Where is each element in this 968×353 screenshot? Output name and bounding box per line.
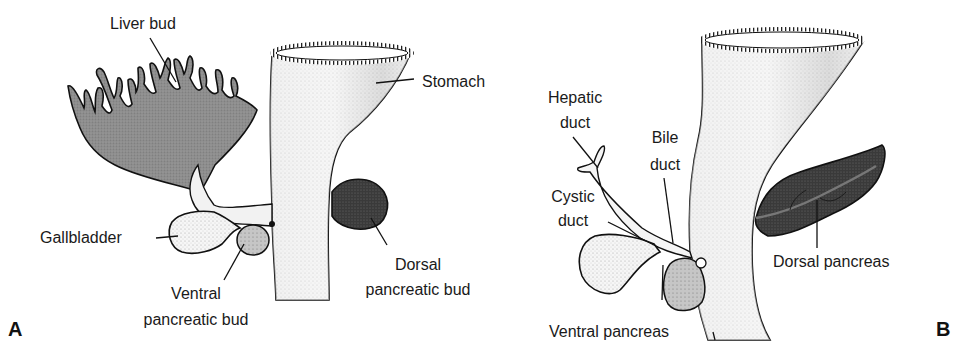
label-dorsal-pancreas: Dorsal pancreas [773,252,890,271]
label-gallbladder: Gallbladder [40,228,122,247]
dorsal-pancreatic-bud-a [332,179,388,229]
label-ventral-pancreatic-bud-line1: Ventral [128,284,264,303]
label-cystic-duct-line2: duct [540,211,606,230]
label-stomach: Stomach [422,72,485,91]
label-liver-bud: Liver bud [110,14,176,33]
gallbladder-b-shape [579,234,660,293]
label-hepatic-duct-line2: duct [540,113,610,132]
label-ventral-pancreatic-bud-line2: pancreatic bud [128,310,264,329]
panel-letter-a: A [8,318,22,341]
label-bile-duct-line1: Bile [645,128,685,147]
label-dorsal-pancreatic-bud-line2: pancreatic bud [350,280,486,299]
label-dorsal-pancreatic-bud-line1: Dorsal [350,255,486,274]
label-ventral-pancreas: Ventral pancreas [549,322,669,341]
panel-letter-b: B [936,318,950,341]
ventral-pancreatic-bud-a [237,225,269,255]
label-cystic-duct-line1: Cystic [540,187,606,206]
label-hepatic-duct-line1: Hepatic [540,88,610,107]
embryology-figure: Liver bud Stomach Gallbladder Ventral pa… [0,0,968,353]
liver-bud-shape [68,56,257,192]
panel-b-drawing [573,29,885,340]
label-bile-duct-line2: duct [645,155,685,174]
